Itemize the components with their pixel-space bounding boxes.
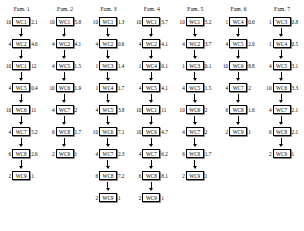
routing-step: 2WC91	[88, 192, 129, 203]
flow-connector-row	[1, 71, 42, 82]
processing-time-label: 3.1	[291, 63, 303, 69]
workcenter-box: WC6	[56, 83, 74, 93]
arrow-head	[106, 188, 110, 191]
lot-size-label: 10	[1, 63, 12, 69]
processing-time-label: 4.1	[160, 41, 172, 47]
processing-time-label: 0.8	[291, 19, 303, 25]
down-arrow-icon	[186, 50, 204, 60]
routing-step: 10WC68.8	[218, 60, 259, 71]
arrow-head	[149, 188, 153, 191]
flow-connector-row	[131, 93, 172, 104]
processing-time-label: 0.6	[247, 19, 259, 25]
workcenter-box: WC2	[12, 39, 30, 49]
flow-connector-row	[175, 115, 216, 126]
processing-time-label: 5.2	[204, 19, 216, 25]
workcenter-box: WC8	[12, 149, 30, 159]
arrow-head	[19, 144, 23, 147]
routing-step: 4WC20.6	[88, 38, 129, 49]
workcenter-box: WC7	[273, 105, 291, 115]
routing-step: 4WC72.3	[88, 148, 129, 159]
down-arrow-icon	[99, 116, 117, 126]
flow-connector-row	[175, 137, 216, 148]
arrow-head	[236, 122, 240, 125]
flow-connector-row	[262, 115, 303, 126]
lot-size-label: 1	[88, 85, 99, 91]
processing-time-label: 3.3	[291, 85, 303, 91]
processing-time-label: 1	[291, 151, 303, 157]
family-title: Fam. 5	[187, 6, 203, 13]
processing-time-label: 2.0	[247, 41, 259, 47]
flow-connector-row	[131, 159, 172, 170]
down-arrow-icon	[142, 160, 160, 170]
routing-step: 6WC88.1	[131, 170, 172, 181]
flow-connector-row	[45, 27, 86, 38]
processing-time-label: 2	[204, 107, 216, 113]
processing-time-label: 3.7	[204, 41, 216, 47]
processing-time-label: 1.3	[117, 19, 129, 25]
lot-size-label: 10	[45, 19, 56, 25]
lot-size-label: 4	[131, 85, 142, 91]
processing-time-label: 1	[204, 173, 216, 179]
processing-time-label: 2.1	[291, 107, 303, 113]
routing-step: 4WC24.1	[45, 38, 86, 49]
processing-time-label: 1.9	[74, 85, 86, 91]
routing-step: 10WC611	[1, 104, 42, 115]
down-arrow-icon	[56, 28, 74, 38]
family-column: Fam. 410WC13.74WC24.11WC40.14WC54.110WC1…	[130, 6, 173, 203]
routing-step: 4WC24.6	[1, 38, 42, 49]
routing-step: 10WC112	[1, 60, 42, 71]
flow-connector-row	[131, 115, 172, 126]
routing-step: 4WC76.2	[131, 148, 172, 159]
flow-connector-row	[175, 159, 216, 170]
flow-connector-row	[131, 27, 172, 38]
down-arrow-icon	[273, 72, 291, 82]
routing-step: 4WC72.1	[262, 104, 303, 115]
lot-size-label: 10	[45, 85, 56, 91]
lot-size-label: 6	[45, 129, 56, 135]
down-arrow-icon	[56, 50, 74, 60]
lot-size-label: 2	[175, 173, 186, 179]
workcenter-box: WC1	[12, 17, 30, 27]
routing-chain: 10WC13.74WC24.11WC40.14WC54.110WC11110WC…	[131, 16, 172, 203]
routing-step: 1WC30.8	[262, 16, 303, 27]
flow-connector-row	[175, 49, 216, 60]
down-arrow-icon	[186, 28, 204, 38]
processing-time-label: 1.7	[204, 151, 216, 157]
family-column: Fam. 210WC15.84WC24.14WC51.510WC61.94WC7…	[43, 6, 86, 159]
workcenter-box: WC4	[273, 39, 291, 49]
flow-connector-row	[45, 49, 86, 60]
flow-connector-row	[88, 115, 129, 126]
flow-connector-row	[1, 115, 42, 126]
down-arrow-icon	[142, 182, 160, 192]
routing-step: 10WC61.9	[45, 82, 86, 93]
lot-size-label: 4	[1, 129, 12, 135]
routing-step: 1WC40.1	[131, 60, 172, 71]
routing-step: 4WC51.5	[45, 60, 86, 71]
routing-step: 6WC81.7	[175, 148, 216, 159]
arrow-head	[62, 144, 66, 147]
lot-size-label: 10	[88, 19, 99, 25]
arrow-head	[279, 34, 283, 37]
arrow-head	[106, 144, 110, 147]
lot-size-label: 6	[88, 173, 99, 179]
routing-step: 2WC91	[131, 192, 172, 203]
processing-time-label: 1.5	[74, 63, 86, 69]
flow-connector-row	[262, 137, 303, 148]
down-arrow-icon	[12, 28, 30, 38]
flow-connector-row	[88, 181, 129, 192]
flow-connector-row	[45, 93, 86, 104]
workcenter-box: WC8	[56, 127, 74, 137]
routing-step: 10WC67.1	[88, 126, 129, 137]
down-arrow-icon	[186, 72, 204, 82]
lot-size-label: 6	[1, 151, 12, 157]
lot-size-label: 1	[262, 41, 273, 47]
processing-time-label: 1.6	[247, 107, 259, 113]
arrow-head	[19, 56, 23, 59]
workcenter-box: WC2	[142, 39, 160, 49]
workcenter-box: WC7	[142, 149, 160, 159]
processing-time-label: 0.5	[291, 41, 303, 47]
flow-connector-row	[218, 93, 259, 104]
flow-connector-row	[262, 71, 303, 82]
lot-size-label: 10	[262, 85, 273, 91]
routing-step: 6WC81.6	[218, 104, 259, 115]
